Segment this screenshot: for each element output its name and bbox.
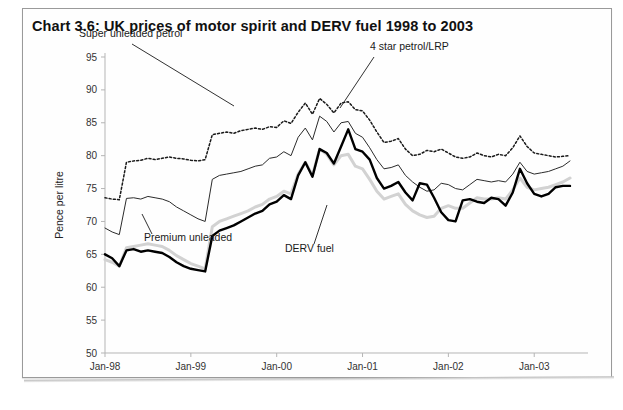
line-chart: 95908580757065605550Pence per litreJan-9…	[22, 8, 610, 376]
y-axis-title: Pence per litre	[53, 171, 65, 239]
annotation-leader-derv	[314, 205, 327, 244]
series-line-premium-unleaded	[105, 149, 570, 269]
annotation-label-super: Super unleaded petrol	[79, 27, 182, 39]
y-tick-label: 80	[86, 150, 98, 161]
plot-area: 95908580757065605550Pence per litreJan-9…	[22, 8, 610, 376]
annotation-label-premium: Premium unleaded	[144, 231, 232, 243]
y-tick-label: 70	[86, 216, 98, 227]
annotation-leader-super	[132, 44, 234, 106]
y-tick-label: 75	[86, 183, 98, 194]
series-line-derv-fuel	[105, 129, 570, 271]
annotation-label-fourstar: 4 star petrol/LRP	[370, 40, 449, 52]
y-tick-label: 60	[86, 282, 98, 293]
x-tick-label: Jan-01	[347, 361, 378, 372]
y-tick-label: 65	[86, 249, 98, 260]
x-tick-label: Jan-02	[433, 361, 464, 372]
y-tick-label: 85	[86, 117, 98, 128]
y-tick-label: 55	[86, 315, 98, 326]
annotation-leader-fourstar	[340, 57, 374, 108]
y-tick-label: 90	[86, 84, 98, 95]
y-tick-label: 50	[86, 348, 98, 359]
y-tick-label: 95	[86, 52, 98, 63]
series-line-super-unleaded-petrol	[105, 98, 570, 199]
annotation-label-derv: DERV fuel	[285, 242, 334, 254]
x-tick-label: Jan-99	[176, 361, 207, 372]
series-line-4-star-petrol-lrp	[105, 116, 570, 234]
x-tick-label: Jan-03	[519, 361, 550, 372]
x-tick-label: Jan-00	[261, 361, 292, 372]
series-layer	[105, 98, 570, 271]
x-tick-label: Jan-98	[90, 361, 121, 372]
chart-page: Chart 3.6: UK prices of motor spirit and…	[0, 0, 623, 410]
